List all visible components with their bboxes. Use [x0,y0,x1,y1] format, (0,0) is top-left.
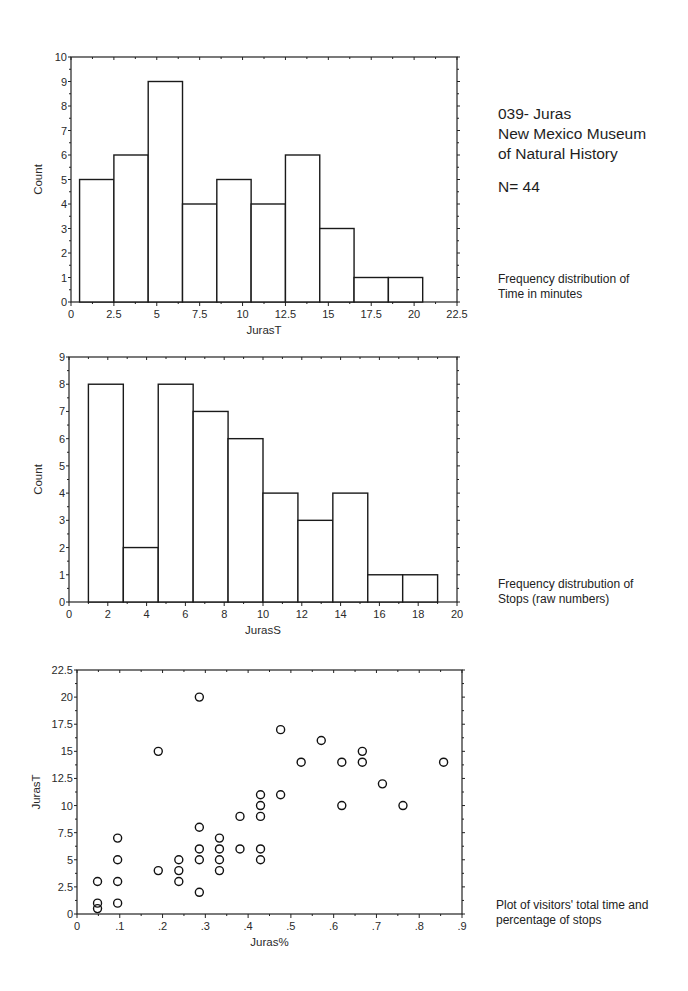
stops-caption: Frequency distrubution of Stops (raw num… [498,577,633,607]
scatter-point [277,726,285,734]
x-tick-label: 17.5 [361,308,382,320]
x-tick-label: .4 [244,920,253,932]
scatter-point [378,780,386,788]
y-tick-label: 5 [59,460,65,472]
x-axis-label: JurasS [245,624,281,636]
histogram-bar [228,439,263,602]
scatter-point [175,877,183,885]
x-tick-label: 20 [408,308,420,320]
y-tick-label: 3 [59,514,65,526]
scatter-point [277,791,285,799]
y-tick-label: 8 [59,378,65,390]
x-tick-label: .8 [415,920,424,932]
y-tick-label: 20 [61,691,73,703]
study-title: 039- Juras New Mexico Museum of Natural … [498,104,646,164]
x-tick-label: 15 [322,308,334,320]
x-tick-label: 7.5 [192,308,207,320]
x-tick-label: .1 [115,920,124,932]
x-tick-label: 0 [66,608,72,620]
y-tick-label: 10 [61,800,73,812]
y-tick-label: 17.5 [52,718,73,730]
y-tick-label: 8 [61,100,67,112]
x-tick-label: 10 [236,308,248,320]
caption-line: Plot of visitors' total time and [496,898,648,913]
scatter-point [195,823,203,831]
y-tick-label: 2 [59,542,65,554]
x-axis-label: Juras% [250,936,288,948]
y-tick-label: 5 [67,854,73,866]
x-axis-label: JurasT [246,324,281,336]
scatter-point [257,802,265,810]
x-tick-label: 2 [105,608,111,620]
scatter-point [114,834,122,842]
y-tick-label: 0 [61,296,67,308]
y-tick-label: 6 [61,149,67,161]
stops-histogram: 024681012141618200123456789JurasSCount [0,340,480,640]
y-tick-label: 10 [55,51,67,63]
y-tick-label: 0 [67,908,73,920]
scatter-point [236,845,244,853]
scatter-point [257,812,265,820]
x-tick-label: 12 [296,608,308,620]
x-tick-label: .6 [329,920,338,932]
scatter-point [257,856,265,864]
y-tick-label: 2 [61,247,67,259]
caption-line: Frequency distrubution of [498,577,633,592]
histogram-bar [88,384,123,602]
scatter-point [175,856,183,864]
histogram-bar [193,411,228,602]
x-tick-label: 2.5 [106,308,121,320]
scatter-point [94,877,102,885]
scatter-point [317,736,325,744]
caption-line: Time in minutes [498,287,629,302]
scatter-point [195,845,203,853]
y-tick-label: 0 [59,596,65,608]
x-tick-label: .5 [286,920,295,932]
y-tick-label: 3 [61,223,67,235]
scatter-point [399,802,407,810]
scatter-point [195,693,203,701]
scatter-point [154,747,162,755]
histogram-bar [285,155,319,302]
x-tick-label: 0 [68,308,74,320]
histogram-bar [320,229,354,303]
x-tick-label: .2 [158,920,167,932]
x-tick-label: 8 [221,608,227,620]
histogram-bar [388,278,422,303]
museum-name-line2: of Natural History [498,144,646,164]
plot-frame [77,670,462,914]
x-tick-label: 20 [451,608,463,620]
y-tick-label: 9 [61,76,67,88]
scatter-point [257,791,265,799]
scatter-point [257,845,265,853]
time-histogram: 02.557.51012.51517.52022.5012345678910Ju… [0,0,480,340]
scatter-point [236,812,244,820]
x-tick-label: .3 [201,920,210,932]
x-tick-label: 16 [373,608,385,620]
scatter-point [195,856,203,864]
y-tick-label: 1 [61,272,67,284]
scatter-point [195,888,203,896]
histogram-bar [368,575,403,602]
scatter-point [440,758,448,766]
histogram-bar [263,493,298,602]
caption-line: percentage of stops [496,913,648,928]
scatter-point [175,867,183,875]
x-tick-label: 22.5 [446,308,467,320]
scatter-point [114,856,122,864]
scatter-point [215,856,223,864]
y-tick-label: 7 [59,405,65,417]
histogram-bar [333,493,368,602]
y-tick-label: 9 [59,351,65,363]
scatter-point [297,758,305,766]
y-tick-label: 5 [61,174,67,186]
scatter-point [338,758,346,766]
histogram-bar [114,155,148,302]
histogram-bar [403,575,438,602]
scatter-point [94,905,102,913]
x-tick-label: 14 [334,608,346,620]
histogram-bar [148,82,182,303]
caption-line: Stops (raw numbers) [498,592,633,607]
scatter-point [358,758,366,766]
x-tick-label: 0 [74,920,80,932]
